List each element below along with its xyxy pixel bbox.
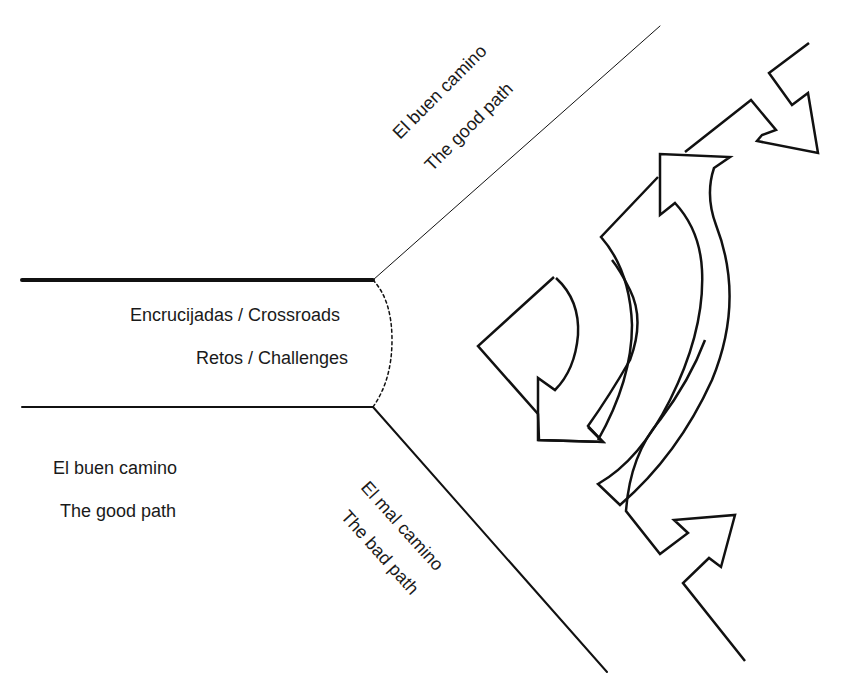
left-path-label-es: El buen camino [53, 458, 177, 478]
center-label-crossroads: Encrucijadas / Crossroads [130, 305, 340, 325]
left-path-label-en: The good path [60, 501, 176, 521]
direction-arrows [478, 43, 818, 661]
curved-up-arrow-icon [598, 154, 730, 505]
top-right-arrow-icon [685, 43, 818, 153]
center-label-challenges: Retos / Challenges [196, 348, 348, 368]
crossroads-diagram: Encrucijadas / Crossroads Retos / Challe… [0, 0, 849, 694]
lower-zigzag-arrow-icon [626, 340, 745, 661]
upper-path-edge [373, 26, 660, 280]
curved-down-arrow-icon [478, 260, 638, 442]
crossroads-boundary [373, 280, 392, 407]
labels: Encrucijadas / Crossroads Retos / Challe… [53, 41, 517, 599]
outer-curve-left [598, 177, 658, 440]
